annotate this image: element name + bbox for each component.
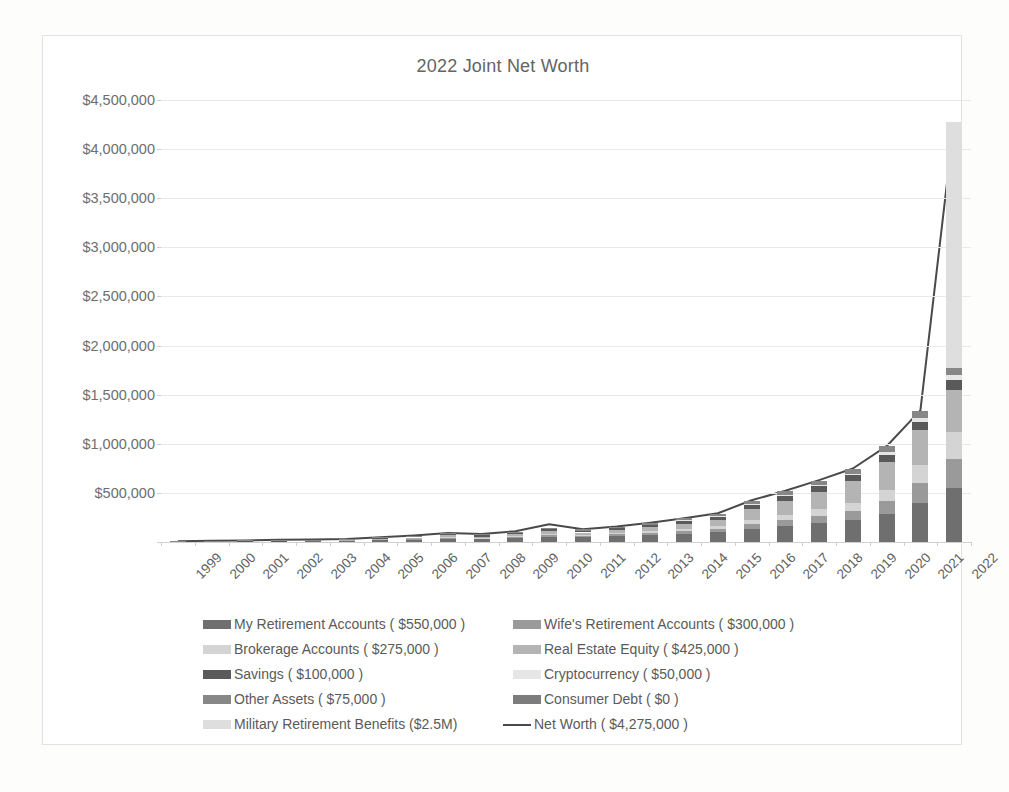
bar-segment: [777, 526, 793, 542]
y-axis-tick-label: $3,500,000: [50, 190, 155, 206]
x-axis-tick-label: 2018: [834, 550, 866, 582]
bar-segment: [845, 511, 861, 520]
y-axis-tick-label: $1,000,000: [50, 436, 155, 452]
stacked-bar: [946, 122, 962, 542]
bar-segment: [879, 446, 895, 452]
x-axis-tick-label: 2009: [530, 550, 562, 582]
legend-line-swatch: [503, 720, 531, 729]
legend-item: Other Assets ( $75,000 ): [203, 691, 503, 707]
bar-segment: [879, 501, 895, 513]
bar-segment: [372, 537, 388, 538]
bar-segment: [946, 380, 962, 390]
x-axis-tick-label: 2019: [868, 550, 900, 582]
chart-title: 2022 Joint Net Worth: [43, 56, 963, 77]
y-axis-tick-label: $1,500,000: [50, 387, 155, 403]
x-axis-tick-label: 2011: [597, 550, 628, 581]
bar-segment: [946, 368, 962, 375]
bar-segment: [946, 390, 962, 432]
bar-segment: [676, 524, 692, 529]
bar-segment: [541, 535, 557, 537]
stacked-bar: [744, 501, 760, 542]
legend-swatch: [513, 620, 541, 629]
stacked-bar: [440, 533, 456, 542]
bar-segment: [710, 520, 726, 526]
bar-segment: [676, 529, 692, 531]
bar-segment: [845, 481, 861, 502]
x-axis-tick-mark: [330, 542, 331, 546]
x-axis-tick-label: 2017: [800, 550, 832, 582]
x-axis-tick-mark: [161, 542, 162, 546]
bar-segment: [710, 526, 726, 529]
legend-label: Real Estate Equity ( $425,000 ): [544, 641, 739, 657]
bar-segment: [541, 528, 557, 529]
x-axis-tick-label: 2005: [395, 550, 427, 582]
bar-segment: [507, 532, 523, 533]
bar-segment: [845, 520, 861, 542]
bar-segment: [676, 518, 692, 520]
legend-swatch: [203, 695, 231, 704]
y-axis-tick-label: $4,500,000: [50, 92, 155, 108]
x-axis-tick-mark: [296, 542, 297, 546]
gridline: [161, 395, 971, 396]
bar-segment: [642, 527, 658, 531]
legend-swatch: [513, 670, 541, 679]
x-axis-tick-label: 2000: [226, 550, 258, 582]
legend-item: My Retirement Accounts ( $550,000 ): [203, 616, 503, 632]
chart-container: 2022 Joint Net Worth $500,000$1,000,000$…: [42, 35, 962, 745]
gridline: [161, 296, 971, 297]
bar-segment: [845, 503, 861, 511]
legend-label: Consumer Debt ( $0 ): [544, 691, 679, 707]
bar-segment: [845, 475, 861, 481]
x-axis-tick-label: 2003: [328, 550, 360, 582]
bar-segment: [912, 503, 928, 542]
bar-segment: [507, 536, 523, 537]
gridline: [161, 149, 971, 150]
bar-segment: [541, 534, 557, 535]
bar-segment: [676, 521, 692, 524]
bar-segment: [912, 422, 928, 430]
bar-segment: [744, 524, 760, 529]
legend-label: Brokerage Accounts ( $275,000 ): [234, 641, 439, 657]
gridline: [161, 346, 971, 347]
legend-item: Consumer Debt ( $0 ): [513, 691, 813, 707]
stacked-bar: [912, 411, 928, 542]
bar-segment: [474, 538, 490, 539]
bar-segment: [811, 481, 827, 485]
legend-item: Wife's Retirement Accounts ( $300,000 ): [513, 616, 813, 632]
y-axis-tick-label: $2,500,000: [50, 288, 155, 304]
bar-segment: [271, 540, 287, 541]
bar-segment: [541, 531, 557, 534]
bar-segment: [777, 501, 793, 515]
x-axis-tick-mark: [499, 542, 500, 546]
bar-segment: [642, 531, 658, 532]
legend-swatch: [203, 670, 231, 679]
legend-columns: My Retirement Accounts ( $550,000 )Wife'…: [203, 616, 863, 707]
x-axis-tick-mark: [937, 542, 938, 546]
bar-segment: [946, 488, 962, 542]
bar-segment: [339, 539, 355, 540]
plot-area: [161, 100, 971, 542]
x-axis-tick-mark: [802, 542, 803, 546]
legend-label: Cryptocurrency ( $50,000 ): [544, 666, 711, 682]
x-axis-tick-mark: [667, 542, 668, 546]
bar-segment: [912, 411, 928, 417]
bar-segment: [845, 469, 861, 474]
bar-segment: [440, 533, 456, 534]
gridline: [161, 247, 971, 248]
x-axis-tick-mark: [600, 542, 601, 546]
x-axis-tick-mark: [397, 542, 398, 546]
bar-segment: [946, 375, 962, 380]
legend-label: Other Assets ( $75,000 ): [234, 691, 386, 707]
bar-segment: [406, 536, 422, 537]
legend-bottom-row: Military Retirement Benefits ($2.5M)Net …: [203, 716, 863, 732]
x-axis-tick-mark: [229, 542, 230, 546]
bar-segment: [710, 532, 726, 542]
bar-segment: [811, 486, 827, 492]
bar-segment: [406, 538, 422, 539]
stacked-bar: [541, 528, 557, 542]
legend-swatch: [203, 720, 231, 729]
x-axis-tick-mark: [836, 542, 837, 546]
legend-label: Savings ( $100,000 ): [234, 666, 363, 682]
stacked-bar: [474, 534, 490, 542]
legend-label: Military Retirement Benefits ($2.5M): [234, 716, 457, 732]
